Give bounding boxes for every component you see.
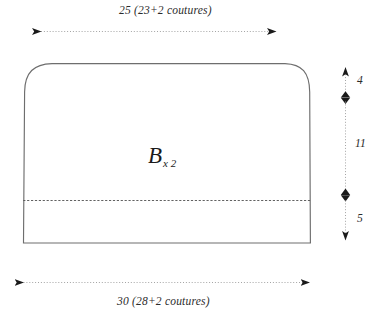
top-dimension-label: 25 (23+2 coutures) bbox=[119, 4, 212, 16]
right-dimension-junction-top-lower bbox=[341, 98, 350, 104]
pattern-diagram: 25 (23+2 coutures) 30 (28+2 coutures) 4 … bbox=[0, 0, 392, 324]
piece-letter: B bbox=[148, 143, 162, 168]
right-dimension-label-11: 11 bbox=[355, 137, 366, 149]
right-dimension-label-5: 5 bbox=[357, 212, 363, 224]
right-dimension-label-4: 4 bbox=[357, 74, 363, 86]
right-dimension-chain bbox=[341, 68, 350, 241]
right-dimension-junction-mid-upper bbox=[341, 189, 350, 195]
bottom-dimension-label: 30 (28+2 coutures) bbox=[117, 295, 210, 307]
pattern-drawing-canvas bbox=[0, 0, 392, 324]
right-dimension-junction-top-upper bbox=[341, 91, 350, 97]
piece-multiplier: x 2 bbox=[163, 157, 176, 169]
piece-label: Bx 2 bbox=[148, 143, 175, 169]
